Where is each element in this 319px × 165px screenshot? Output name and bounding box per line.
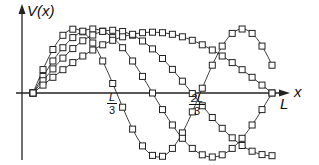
square-marker-icon [169,31,175,37]
square-marker-icon [160,153,166,159]
square-marker-icon [160,107,166,113]
square-marker-icon [259,82,265,88]
square-marker-icon [60,67,66,73]
square-marker-icon [160,56,166,62]
square-marker-icon [219,152,225,158]
square-marker-icon [70,35,76,41]
tick-label-2L-over-3: 2L 3 [189,92,205,117]
potential-diagram [0,0,319,165]
square-marker-icon [110,81,116,87]
square-marker-icon [209,47,215,53]
square-marker-icon [120,104,126,110]
square-marker-icon [249,148,255,154]
square-marker-icon [60,55,66,61]
square-marker-icon [130,126,136,132]
square-marker-icon [130,58,136,64]
square-marker-icon [50,47,56,53]
square-marker-icon [120,34,126,40]
square-marker-icon [80,28,86,34]
square-marker-icon [70,26,76,32]
square-marker-icon [120,45,126,51]
square-marker-icon [179,78,185,84]
square-marker-icon [130,31,136,37]
square-marker-icon [70,46,76,52]
square-marker-icon [269,153,275,159]
tick-denominator: 3 [107,104,117,116]
square-marker-icon [150,46,156,52]
square-marker-icon [209,115,215,121]
square-marker-icon [140,30,146,36]
square-marker-icon [40,67,46,73]
L-label: L [280,95,288,112]
square-marker-icon [189,145,195,151]
square-marker-icon [249,74,255,80]
square-marker-icon [150,29,156,35]
axes [16,4,290,160]
square-marker-icon [70,60,76,66]
square-marker-icon [90,47,96,53]
square-marker-icon [80,53,86,59]
square-marker-icon [100,58,106,64]
tick-numerator: 2L [189,92,205,105]
square-marker-icon [140,73,146,79]
square-marker-icon [229,135,235,141]
square-marker-icon [140,38,146,44]
square-marker-icon [239,143,245,149]
tick-numerator: L [107,91,117,104]
square-marker-icon [239,135,245,141]
square-marker-icon [140,143,146,149]
square-marker-icon [239,26,245,32]
square-marker-icon [110,27,116,33]
square-marker-icon [229,60,235,66]
square-marker-icon [80,38,86,44]
x-axis-label: x [294,83,302,100]
square-marker-icon [199,42,205,48]
y-axis-label: V(x) [27,2,55,19]
square-marker-icon [189,37,195,43]
square-marker-icon [50,66,56,72]
square-marker-icon [269,90,275,96]
square-marker-icon [249,122,255,128]
tick-denominator: 3 [189,105,205,117]
square-marker-icon [150,152,156,158]
square-marker-icon [209,62,215,68]
square-marker-icon [100,28,106,34]
square-marker-icon [169,122,175,128]
square-marker-icon [169,66,175,72]
square-marker-icon [219,53,225,59]
square-marker-icon [30,90,36,96]
tick-label-L-over-3: L 3 [107,91,117,116]
square-marker-icon [90,32,96,38]
square-marker-icon [110,37,116,43]
square-marker-icon [60,32,66,38]
square-marker-icon [229,30,235,36]
square-marker-icon [199,152,205,158]
square-marker-icon [179,135,185,141]
square-marker-icon [249,30,255,36]
square-marker-icon [219,125,225,131]
square-marker-icon [239,67,245,73]
y-axis-arrow-icon [19,4,26,14]
square-marker-icon [259,43,265,49]
square-marker-icon [40,82,46,88]
square-marker-icon [219,43,225,49]
square-marker-icon [269,62,275,68]
square-marker-icon [90,40,96,46]
square-marker-icon [50,58,56,64]
square-marker-icon [209,154,215,160]
square-marker-icon [90,26,96,32]
square-marker-icon [60,45,66,51]
square-marker-icon [199,85,205,91]
square-marker-icon [229,145,235,151]
square-marker-icon [259,152,265,158]
square-marker-icon [50,74,56,80]
square-marker-icon [179,34,185,40]
square-marker-icon [160,30,166,36]
square-marker-icon [100,42,106,48]
square-marker-icon [169,145,175,151]
square-marker-icon [259,107,265,113]
square-marker-icon [150,90,156,96]
